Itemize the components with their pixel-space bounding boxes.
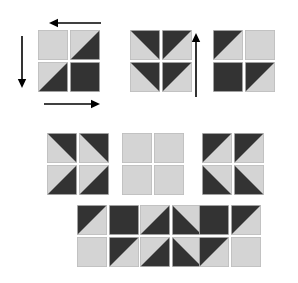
middle-middle-group-tile-br[interactable] (154, 165, 184, 195)
middle-left-group-tile-bl[interactable] (47, 165, 77, 195)
middle-middle-group[interactable] (122, 133, 184, 195)
top-middle-group-tile-bl[interactable] (130, 62, 160, 92)
bottom-left-group[interactable] (77, 205, 139, 267)
middle-middle-group-tile-bl[interactable] (122, 165, 152, 195)
bottom-middle-group-tile-bl[interactable] (140, 237, 170, 267)
diagram-canvas (0, 0, 298, 283)
bottom-right-group-tile-bl[interactable] (199, 237, 229, 267)
top-middle-group-tile-tl[interactable] (130, 30, 160, 60)
arrow-up-icon (188, 25, 204, 105)
top-right-group[interactable] (213, 30, 275, 92)
bottom-right-group-tile-tl[interactable] (199, 205, 229, 235)
middle-middle-group-tile-tl[interactable] (122, 133, 152, 163)
top-right-group-tile-tl[interactable] (213, 30, 243, 60)
bottom-left-group-tile-bl[interactable] (77, 237, 107, 267)
top-left-group-tile-br[interactable] (70, 62, 100, 92)
middle-right-group-tile-br[interactable] (234, 165, 264, 195)
bottom-middle-group-tile-tl[interactable] (140, 205, 170, 235)
bottom-left-group-tile-tr[interactable] (109, 205, 139, 235)
bottom-middle-group[interactable] (140, 205, 202, 267)
bottom-right-group-tile-tr[interactable] (231, 205, 261, 235)
arrow-down-icon (14, 28, 30, 96)
arrow-left-icon (41, 15, 109, 31)
top-right-group-tile-br[interactable] (245, 62, 275, 92)
middle-right-group-tile-tr[interactable] (234, 133, 264, 163)
bottom-right-group-tile-br[interactable] (231, 237, 261, 267)
top-left-group-tile-tr[interactable] (70, 30, 100, 60)
middle-left-group-tile-tl[interactable] (47, 133, 77, 163)
top-left-group-tile-tl[interactable] (38, 30, 68, 60)
bottom-left-group-tile-tl[interactable] (77, 205, 107, 235)
arrow-right-icon (36, 96, 108, 112)
middle-left-group[interactable] (47, 133, 109, 195)
middle-middle-group-tile-tr[interactable] (154, 133, 184, 163)
bottom-middle-group-tile-tr[interactable] (172, 205, 202, 235)
top-right-group-tile-tr[interactable] (245, 30, 275, 60)
top-left-group[interactable] (38, 30, 100, 92)
bottom-left-group-tile-br[interactable] (109, 237, 139, 267)
bottom-right-group[interactable] (199, 205, 261, 267)
bottom-middle-group-tile-br[interactable] (172, 237, 202, 267)
middle-left-group-tile-br[interactable] (79, 165, 109, 195)
top-middle-group[interactable] (130, 30, 192, 92)
middle-right-group-tile-bl[interactable] (202, 165, 232, 195)
middle-right-group-tile-tl[interactable] (202, 133, 232, 163)
middle-left-group-tile-tr[interactable] (79, 133, 109, 163)
middle-right-group[interactable] (202, 133, 264, 195)
top-left-group-tile-bl[interactable] (38, 62, 68, 92)
top-right-group-tile-bl[interactable] (213, 62, 243, 92)
